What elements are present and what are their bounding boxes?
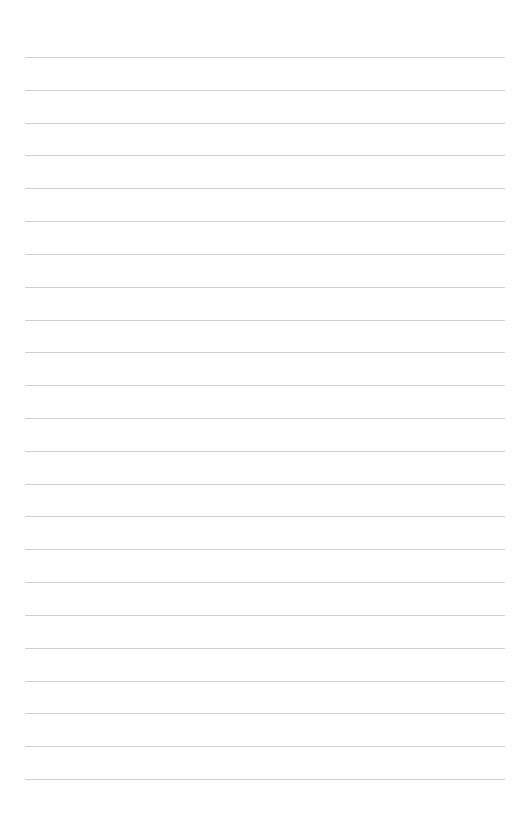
ruled-line [25,352,505,353]
ruled-line [25,123,505,124]
ruled-line [25,155,505,156]
ruled-line [25,681,505,682]
ruled-line [25,320,505,321]
ruled-line [25,746,505,747]
ruled-line [25,188,505,189]
lined-paper-page [0,0,515,834]
ruled-line [25,57,505,58]
ruled-line [25,516,505,517]
ruled-line [25,648,505,649]
ruled-line [25,287,505,288]
ruled-line [25,451,505,452]
ruled-line [25,549,505,550]
ruled-line [25,418,505,419]
ruled-line [25,484,505,485]
ruled-line [25,779,505,780]
ruled-line [25,221,505,222]
ruled-line [25,254,505,255]
ruled-line [25,615,505,616]
ruled-line [25,713,505,714]
ruled-line [25,582,505,583]
ruled-line [25,90,505,91]
ruled-line [25,385,505,386]
